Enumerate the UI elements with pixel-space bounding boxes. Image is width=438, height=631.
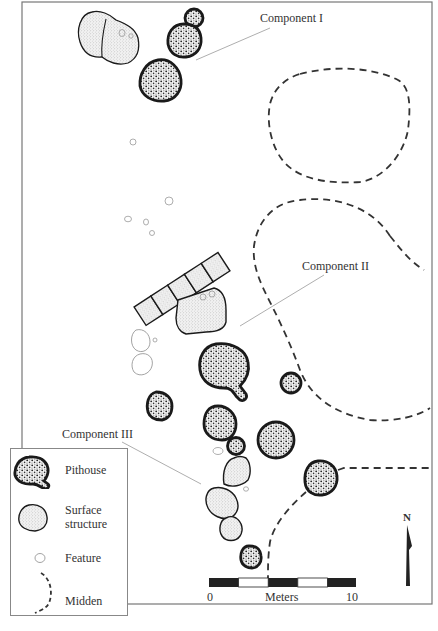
leader-line-component-2: [240, 275, 324, 326]
feature: [153, 338, 157, 342]
scale-start-label: 0: [207, 591, 213, 603]
component-3-label: Component III: [62, 428, 133, 440]
pithouse-icon: [11, 449, 61, 489]
surface-structure-icon: [11, 497, 61, 537]
component-2-label: Component II: [302, 260, 369, 272]
midden: [254, 199, 430, 420]
pithouse: [228, 438, 245, 455]
feature: [165, 197, 173, 205]
feature: [150, 231, 155, 236]
legend-item-pithouse: Pithouse: [11, 449, 129, 489]
feature: [213, 448, 223, 455]
pithouse: [305, 461, 337, 495]
surface-structure: [220, 517, 242, 541]
legend-label-surface-line1: Surface: [65, 503, 102, 517]
leader-line-component-1: [196, 28, 270, 60]
midden-segment: [338, 468, 432, 470]
pithouse: [140, 60, 181, 101]
legend: Pithouse Surface structure Feature Midde…: [10, 448, 128, 616]
pithouse: [204, 406, 236, 440]
feature: [132, 354, 152, 375]
component-3-cluster: [122, 392, 337, 568]
north-arrow-icon: [406, 525, 412, 586]
feature: [144, 219, 149, 225]
legend-item-surface-structure: Surface structure: [11, 497, 129, 537]
legend-label-surface-structure: Surface structure: [65, 503, 107, 531]
component-1-cluster: [79, 9, 271, 101]
leader-line-component-3: [122, 442, 201, 484]
legend-label-midden: Midden: [65, 594, 102, 608]
feature: [132, 330, 151, 352]
pithouse: [147, 392, 172, 420]
component-2-cluster: [132, 252, 325, 400]
pithouse: [241, 546, 261, 568]
legend-item-feature: Feature: [11, 545, 129, 569]
pithouse: [281, 373, 301, 393]
pithouse: [258, 422, 294, 458]
midden-icon: [11, 569, 61, 615]
scale-unit-label: Meters: [265, 591, 298, 603]
pithouse: [200, 344, 249, 401]
scale-bar: [209, 578, 356, 587]
legend-label-pithouse: Pithouse: [65, 463, 106, 477]
legend-label-surface-line2: structure: [65, 517, 107, 531]
scale-end-label: 10: [346, 591, 358, 603]
feature-scatter: [125, 139, 174, 236]
surface-structure: [206, 487, 238, 518]
midden: [269, 69, 410, 183]
legend-label-feature: Feature: [65, 551, 101, 565]
legend-item-midden: Midden: [11, 569, 129, 615]
component-1-label: Component I: [260, 12, 323, 24]
midden-segment: [390, 236, 424, 270]
midden: [268, 492, 306, 578]
north-label: N: [403, 512, 411, 523]
feature: [244, 487, 249, 491]
feature: [125, 216, 132, 222]
feature-icon: [11, 545, 61, 569]
feature: [130, 139, 136, 145]
pithouse: [168, 24, 201, 57]
surface-structure: [223, 457, 250, 487]
